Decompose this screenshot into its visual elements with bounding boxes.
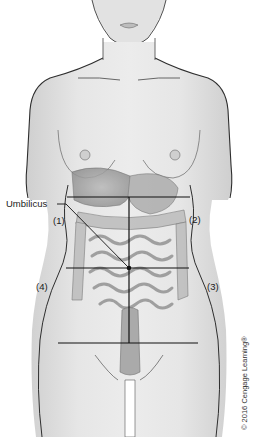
anatomy-figure	[0, 0, 258, 437]
label-quadrant-4: (4)	[36, 281, 48, 292]
label-quadrant-2: (2)	[189, 214, 201, 225]
copyright-notice: © 2016 Cengage Learning®	[240, 336, 249, 430]
label-umbilicus: Umbilicus	[6, 198, 47, 209]
umbilicus-dot	[127, 266, 132, 271]
label-quadrant-1: (1)	[53, 215, 65, 226]
label-quadrant-3: (3)	[207, 281, 219, 292]
